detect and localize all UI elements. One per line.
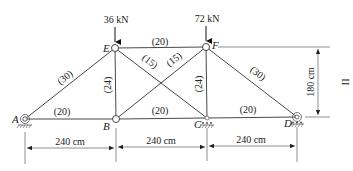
height-label: 180 cm	[305, 67, 316, 97]
side-mark: II	[340, 78, 352, 86]
truss-diagram: (20) (20) (20) (20) (30) (30) (24) (24) …	[0, 0, 353, 171]
load-label-F: 72 kN	[195, 13, 220, 24]
label-EF: (20)	[152, 36, 169, 48]
node-label-E: E	[102, 42, 110, 54]
label-AE: (30)	[55, 68, 76, 88]
node-D-inner	[295, 115, 299, 119]
member-EF	[115, 47, 206, 48]
member-FC	[206, 47, 207, 118]
height-dimension: 180 cm	[218, 47, 330, 117]
label-AB: (20)	[54, 106, 71, 118]
span-label-1: 240 cm	[55, 136, 85, 147]
node-label-B: B	[103, 120, 110, 132]
label-BC: (20)	[152, 105, 169, 117]
node-label-A: A	[11, 113, 19, 125]
span-label-3: 240 cm	[236, 134, 266, 145]
node-label-C: C	[194, 118, 202, 130]
span-dimensions: 240 cm 240 cm 240 cm	[25, 127, 297, 164]
label-EB: (24)	[102, 77, 114, 94]
label-FC: (24)	[193, 76, 205, 93]
member-EB	[115, 48, 116, 119]
label-FD: (30)	[248, 64, 269, 84]
node-A	[23, 117, 27, 121]
node-F	[203, 44, 210, 51]
node-label-F: F	[211, 39, 219, 51]
node-E	[112, 45, 119, 52]
node-labels: A B C D E F	[11, 39, 292, 132]
label-CD: (20)	[240, 104, 257, 116]
load-label-E: 36 kN	[104, 14, 129, 25]
node-B	[113, 116, 120, 123]
span-label-2: 240 cm	[146, 135, 176, 146]
node-label-D: D	[283, 117, 292, 129]
member-labels: (20) (20) (20) (20) (30) (30) (24) (24) …	[54, 36, 268, 118]
